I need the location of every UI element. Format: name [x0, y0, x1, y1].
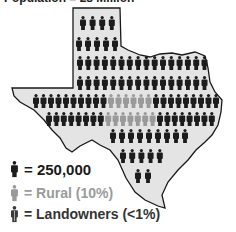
legend-item-rural: = Rural (10%): [10, 184, 113, 202]
legend-label-rural: = Rural (10%): [24, 185, 113, 201]
legend-item-person: = 250,000: [10, 160, 91, 178]
person-icon: [11, 161, 18, 177]
rural-person-icon: [10, 184, 20, 202]
rural-person-icon: [11, 185, 18, 201]
legend-item-landowner: = Landowners (<1%): [10, 205, 160, 223]
person-icon: [10, 160, 20, 178]
legend-label-person: = 250,000: [24, 161, 91, 178]
landowner-person-icon: [11, 206, 18, 222]
legend-label-landowner: = Landowners (<1%): [24, 206, 160, 222]
people-grid: [33, 16, 219, 183]
landowner-person-icon: [10, 205, 20, 223]
